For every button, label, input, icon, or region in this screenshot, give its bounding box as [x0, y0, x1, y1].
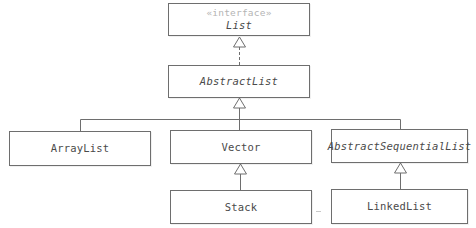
class-diagram: «interface» List AbstractList ArrayList … — [0, 0, 476, 228]
realization-arrowhead-icon — [234, 37, 246, 47]
class-name-abstractlist: AbstractList — [200, 75, 278, 88]
class-name-stack: Stack — [225, 201, 258, 214]
class-box-stack: Stack — [170, 190, 312, 224]
class-name-list: List — [226, 19, 252, 32]
class-box-linkedlist: LinkedList — [331, 189, 468, 224]
class-name-vector: Vector — [221, 141, 260, 154]
generalization-arrowhead-icon — [234, 98, 246, 108]
linkedlist-arrowhead-icon — [395, 163, 407, 173]
class-name-linkedlist: LinkedList — [367, 200, 432, 213]
class-box-abstractlist: AbstractList — [168, 65, 310, 98]
class-box-abstractsequentiallist: AbstractSequentialList — [331, 129, 468, 163]
class-box-arraylist: ArrayList — [9, 131, 151, 166]
stack-arrowhead-icon — [235, 164, 247, 174]
class-name-abstractsequentiallist: AbstractSequentialList — [328, 140, 471, 153]
stereotype-label: «interface» — [206, 7, 271, 19]
class-box-list: «interface» List — [168, 3, 310, 36]
class-box-vector: Vector — [170, 130, 312, 164]
class-name-arraylist: ArrayList — [51, 142, 110, 155]
